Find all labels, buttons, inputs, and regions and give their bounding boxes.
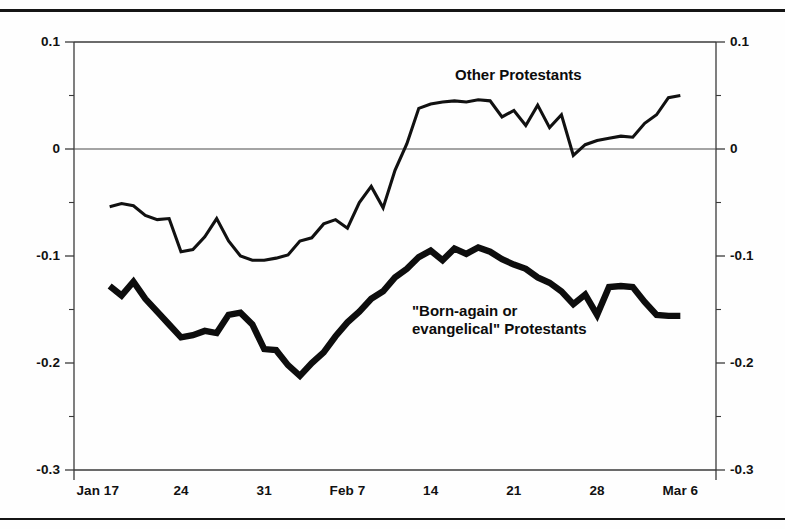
series-line-born-again-protestants xyxy=(110,247,681,375)
series-group xyxy=(110,96,681,376)
x-axis-tick-label: Feb 7 xyxy=(302,483,392,498)
y-axis-right-tick-label: -0.2 xyxy=(730,355,785,370)
x-axis-tick-label: 24 xyxy=(136,483,226,498)
axis-group xyxy=(74,42,716,470)
y-axis-right-tick-label: 0.1 xyxy=(730,34,785,49)
x-axis-tick-label: Mar 6 xyxy=(635,483,725,498)
tick-group xyxy=(65,42,725,480)
y-axis-right-tick-label: -0.1 xyxy=(730,248,785,263)
series-label-other-protestants: Other Protestants xyxy=(455,66,582,84)
x-axis-tick-label: 14 xyxy=(386,483,476,498)
y-axis-right-tick-label: 0 xyxy=(730,141,785,156)
y-axis-left-tick-label: -0.1 xyxy=(0,248,60,263)
y-axis-left-tick-label: 0 xyxy=(0,141,60,156)
series-label-born-again-protestants: "Born-again or evangelical" Protestants xyxy=(412,302,587,339)
x-axis-tick-label: 31 xyxy=(219,483,309,498)
x-axis-tick-label: 21 xyxy=(469,483,559,498)
series-line-other-protestants xyxy=(110,96,681,261)
y-axis-left-tick-label: -0.3 xyxy=(0,462,60,477)
chart-figure: 0.10-0.1-0.2-0.3 0.10-0.1-0.2-0.3 Jan 17… xyxy=(0,0,785,529)
y-axis-left-tick-label: 0.1 xyxy=(0,34,60,49)
y-axis-left-tick-label: -0.2 xyxy=(0,355,60,370)
y-axis-right-tick-label: -0.3 xyxy=(730,462,785,477)
x-axis-tick-label: 28 xyxy=(552,483,642,498)
line-chart-plot xyxy=(0,0,785,529)
x-axis-tick-label: Jan 17 xyxy=(53,483,143,498)
